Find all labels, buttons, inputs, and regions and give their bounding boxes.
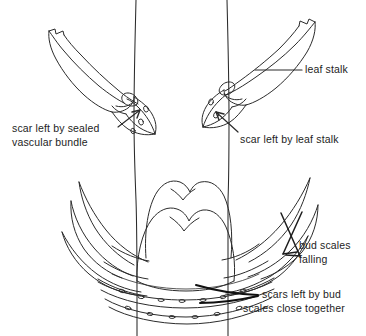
bud-scales (62, 178, 318, 296)
label-bud-scale-scars: scars left by bud scales close together (262, 288, 345, 315)
label-bud-scales-falling: bud scales falling (299, 239, 351, 266)
label-leaf-stalk-scar-text: scar left by leaf stalk (240, 133, 339, 147)
label-sealed-line2: vascular bundle (12, 136, 99, 150)
twig-illustration (0, 0, 366, 336)
label-sealed-line1: scar left by sealed (12, 122, 99, 136)
label-sealed-vascular-bundle: scar left by sealed vascular bundle (12, 122, 99, 149)
label-bud-scars-line2: scales close together (243, 302, 345, 316)
label-leaf-stalk-scar: scar left by leaf stalk (240, 133, 339, 147)
terminal-bud (137, 181, 235, 291)
left-leaf-stalk (49, 29, 138, 112)
label-leaf-stalk-text: leaf stalk (305, 63, 348, 77)
label-bud-scales-line2: falling (299, 253, 351, 267)
right-leaf-stalk (219, 19, 315, 105)
label-leaf-stalk: leaf stalk (305, 63, 348, 77)
label-bud-scales-line1: bud scales (299, 239, 351, 253)
leader-bud-scars (196, 285, 258, 303)
right-leaf-scar (202, 90, 246, 128)
leader-leaf-stalk-scar (216, 112, 238, 132)
diagram-canvas: leaf stalk scar left by sealed vascular … (0, 0, 366, 336)
label-bud-scars-line1: scars left by bud (262, 288, 345, 302)
